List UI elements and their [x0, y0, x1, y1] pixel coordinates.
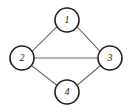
edges-layer [32, 27, 101, 85]
graph-node-1: 1 [55, 8, 79, 32]
graph-edge-1-2 [32, 27, 57, 52]
graph-node-4: 4 [55, 80, 79, 104]
graph-node-2: 2 [10, 46, 34, 70]
nodes-layer: 1234 [10, 8, 122, 104]
graph-edge-1-3 [77, 27, 100, 52]
graph-node-label-4: 4 [65, 86, 70, 97]
graph-canvas: 1234 [0, 0, 130, 112]
graph-node-label-3: 3 [107, 52, 113, 63]
graph-diagram: 1234 [0, 0, 130, 112]
graph-node-3: 3 [98, 46, 122, 70]
graph-edge-4-3 [78, 66, 101, 86]
graph-node-label-1: 1 [65, 14, 70, 25]
graph-edge-2-4 [32, 66, 57, 86]
graph-node-label-2: 2 [20, 52, 25, 63]
